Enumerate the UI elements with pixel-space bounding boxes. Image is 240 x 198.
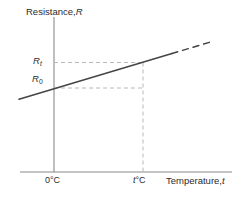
- y-axis-title-variable: R: [76, 6, 83, 17]
- t-celsius-unit: °C: [136, 175, 146, 185]
- y-axis-title-text: Resistance,: [26, 6, 76, 17]
- r0-subscript: 0: [39, 78, 43, 85]
- y-tick-label-r0: R0: [32, 74, 43, 86]
- x-tick-label-t-celsius: t°C: [133, 176, 146, 185]
- resistance-temperature-graph: Resistance,R Rt R0 0°C t°C Temperature,t: [0, 0, 240, 198]
- x-axis-title-variable: t: [222, 175, 225, 186]
- y-axis-title: Resistance,R: [26, 7, 83, 17]
- resistance-line-extrapolation: [172, 41, 213, 53]
- y-tick-label-rt: Rt: [33, 56, 42, 68]
- x-tick-label-zero-celsius: 0°C: [45, 176, 60, 185]
- rt-base: R: [33, 55, 40, 66]
- r0-base: R: [32, 73, 39, 84]
- x-axis-title: Temperature,t: [166, 176, 225, 186]
- plot-canvas: [0, 0, 240, 198]
- x-axis-title-text: Temperature,: [166, 175, 222, 186]
- rt-subscript: t: [40, 60, 42, 67]
